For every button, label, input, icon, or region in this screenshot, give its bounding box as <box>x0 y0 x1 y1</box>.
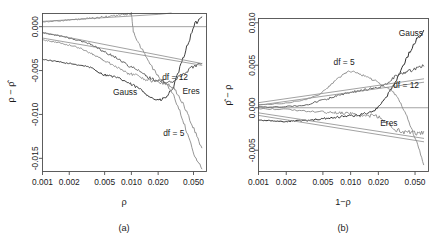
x-tick-label: 0.020 <box>148 177 169 187</box>
y-tick-label: 0.000 <box>31 16 41 37</box>
x-tick-label: 0.050 <box>183 177 204 187</box>
x-tick-label: 0.002 <box>59 177 80 187</box>
y-tick-label: 0.010 <box>247 12 257 33</box>
panel-b-curves <box>259 30 429 164</box>
x-tick-label: 0.001 <box>248 177 269 187</box>
curve-label-df-5: df = 5 <box>334 57 356 67</box>
x-tick-label: 0.005 <box>94 177 115 187</box>
x-tick-label: 0.050 <box>405 177 426 187</box>
curve-label-df-5: df = 5 <box>163 128 185 138</box>
panel-b-tag: (b) <box>337 223 348 233</box>
panel-a-svg: 0.0010.0020.0050.0100.0200.0500.000-0.00… <box>0 0 222 241</box>
curve-label-eres: Eres <box>380 118 397 128</box>
panel-b-svg: 0.0010.0020.0050.0100.0200.0500.0100.005… <box>222 0 444 241</box>
y-tick-label: 0.000 <box>247 97 257 118</box>
curve-label-gauss: Gauss <box>399 28 423 38</box>
y-tick-label: -0.005 <box>31 58 41 82</box>
series-line-theory-upper <box>43 13 172 21</box>
series-line-theory-lower <box>43 38 202 65</box>
y-tick-label: -0.010 <box>31 102 41 126</box>
panel-b-xlabel: 1−ρ <box>335 197 351 207</box>
curve-label-eres: Eres <box>183 86 200 96</box>
x-tick-label: 0.020 <box>368 177 389 187</box>
x-tick-label: 0.010 <box>340 177 361 187</box>
curve-label-df-12: df = 12 <box>162 72 188 82</box>
y-tick-label: -0.015 <box>31 146 41 170</box>
panel-a-canvas: 0.0010.0020.0050.0100.0200.0500.000-0.00… <box>0 0 222 241</box>
panel-a-tag: (a) <box>118 223 129 233</box>
x-tick-label: 0.001 <box>32 177 53 187</box>
curve-label-gauss: Gauss <box>113 87 137 97</box>
x-tick-label: 0.010 <box>121 177 142 187</box>
series-line-theory-mid <box>43 32 202 63</box>
panel-a: 0.0010.0020.0050.0100.0200.0500.000-0.00… <box>0 0 222 241</box>
panel-b-canvas: 0.0010.0020.0050.0100.0200.0500.0100.005… <box>222 0 444 241</box>
curve-label-df-12: df = 12 <box>393 80 419 90</box>
panel-b: 0.0010.0020.0050.0100.0200.0500.0100.005… <box>222 0 444 241</box>
panel-a-xlabel: ρ <box>121 197 126 207</box>
panel-a-ylabel: ρ − ρ̂ <box>6 80 16 103</box>
x-tick-label: 0.002 <box>276 177 297 187</box>
x-tick-label: 0.005 <box>312 177 333 187</box>
y-tick-label: -0.005 <box>247 138 257 162</box>
panel-b-ylabel: ρ̂ − ρ <box>223 85 233 106</box>
y-tick-label: 0.005 <box>247 54 257 75</box>
figure-container: 0.0010.0020.0050.0100.0200.0500.000-0.00… <box>0 0 444 241</box>
panel-a-axes: 0.0010.0020.0050.0100.0200.0500.000-0.00… <box>31 16 205 187</box>
